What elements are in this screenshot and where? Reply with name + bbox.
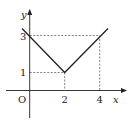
- origin-label: O: [18, 94, 26, 105]
- x-tick-label-2: 2: [62, 94, 68, 105]
- guide-lines: [30, 36, 100, 91]
- x-axis-label: x: [113, 94, 119, 105]
- function-graph: y x O 2 4 1 3: [0, 0, 132, 124]
- y-tick-label-1: 1: [20, 67, 26, 78]
- x-tick-label-4: 4: [97, 94, 103, 105]
- y-tick-label-3: 3: [20, 31, 26, 42]
- y-axis-label: y: [20, 9, 27, 20]
